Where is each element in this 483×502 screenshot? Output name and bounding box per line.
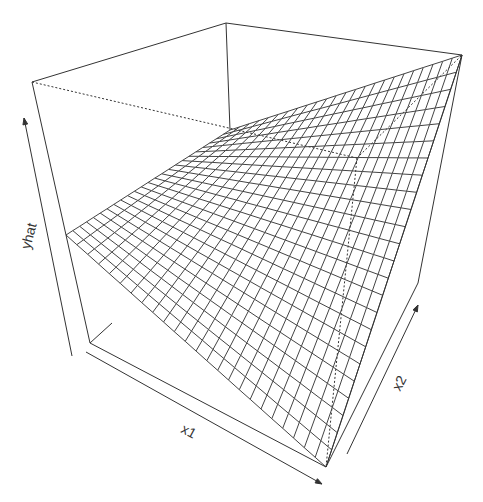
persp-plot: x1 x2 yhat [0, 0, 483, 502]
hidden-box-edges [32, 55, 462, 467]
x1-axis-label: x1 [179, 421, 200, 442]
x2-axis-label: x2 [389, 373, 410, 394]
axis-arrows [23, 118, 418, 484]
yhat-axis-label: yhat [17, 221, 39, 251]
wireframe-surface [66, 55, 462, 467]
